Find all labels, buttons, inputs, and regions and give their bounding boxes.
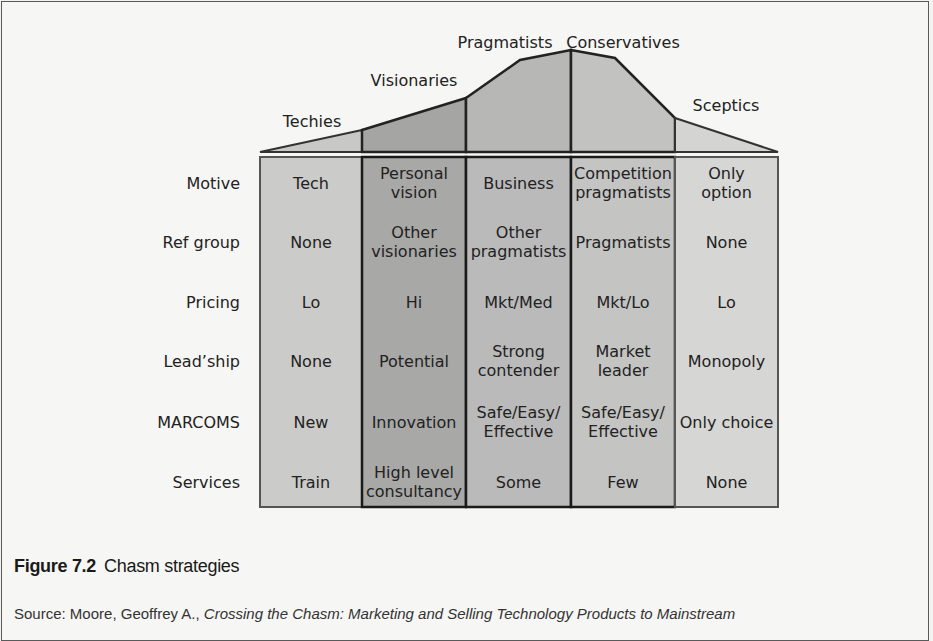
- table-cell: Safe/Easy/Effective: [571, 403, 675, 441]
- column-sceptics: [675, 157, 778, 507]
- cell-line: vision: [391, 183, 438, 202]
- source-prefix: Source: Moore, Geoffrey A.,: [14, 605, 204, 622]
- table-cell: Strongcontender: [466, 342, 571, 380]
- cell-line: contender: [478, 361, 560, 380]
- table-cell: None: [675, 473, 778, 492]
- table-cell: Hi: [362, 293, 466, 312]
- table-cell: Some: [466, 473, 571, 492]
- cell-line: Hi: [406, 293, 422, 312]
- table-cell: Monopoly: [675, 352, 778, 371]
- row-label-pricing: Pricing: [186, 293, 240, 312]
- curve-segment-sceptics: [675, 118, 778, 152]
- table-cell: None: [260, 352, 362, 371]
- figure-title: Chasm strategies: [104, 556, 239, 576]
- cell-line: New: [294, 413, 329, 432]
- curve-segment-pragmatists: [466, 50, 571, 152]
- table-cell: Otherpragmatists: [466, 223, 571, 261]
- table-cell: Competitionpragmatists: [571, 164, 675, 202]
- cell-line: Tech: [293, 174, 329, 193]
- cell-line: Safe/Easy/: [581, 403, 665, 422]
- cell-line: Few: [607, 473, 638, 492]
- table-cell: Pragmatists: [571, 233, 675, 252]
- table-cell: None: [675, 233, 778, 252]
- cell-line: Other: [496, 223, 541, 242]
- cell-line: Effective: [588, 422, 658, 441]
- cell-line: None: [290, 233, 332, 252]
- cell-line: Competition: [574, 164, 672, 183]
- row-label-marcoms: MARCOMS: [157, 413, 240, 432]
- row-label-services: Services: [173, 473, 240, 492]
- cell-line: Train: [292, 473, 330, 492]
- cell-line: None: [706, 233, 748, 252]
- row-label-leadership: Lead’ship: [163, 352, 240, 371]
- cell-line: None: [706, 473, 748, 492]
- curve-segment-visionaries: [362, 98, 466, 152]
- cell-line: Only: [708, 164, 745, 183]
- table-cell: Innovation: [362, 413, 466, 432]
- curve-segment-conservatives: [571, 50, 675, 152]
- cell-line: Safe/Easy/: [477, 403, 561, 422]
- table-cell: Few: [571, 473, 675, 492]
- cell-line: Mkt/Med: [484, 293, 553, 312]
- cell-line: Only choice: [680, 413, 774, 432]
- table-cell: Othervisionaries: [362, 223, 466, 261]
- cell-line: Monopoly: [688, 352, 765, 371]
- table-cell: Only choice: [675, 413, 778, 432]
- cell-line: visionaries: [371, 242, 457, 261]
- table-cell: Onlyoption: [675, 164, 778, 202]
- row-label-motive: Motive: [186, 174, 240, 193]
- figure-source: Source: Moore, Geoffrey A., Crossing the…: [14, 605, 735, 622]
- table-cell: Lo: [260, 293, 362, 312]
- figure-number: Figure 7.2: [14, 556, 96, 576]
- cell-line: Some: [496, 473, 541, 492]
- column-conservatives: [571, 157, 675, 507]
- cell-line: pragmatists: [575, 183, 671, 202]
- cell-line: Potential: [379, 352, 449, 371]
- cell-line: High level: [374, 463, 454, 482]
- segment-label-conservatives: Conservatives: [566, 33, 680, 52]
- cell-line: Lo: [302, 293, 320, 312]
- segment-label-sceptics: Sceptics: [693, 96, 760, 115]
- column-techies: [260, 157, 362, 507]
- table-cell: None: [260, 233, 362, 252]
- cell-line: leader: [598, 361, 649, 380]
- cell-line: Pragmatists: [576, 233, 671, 252]
- table-cell: Lo: [675, 293, 778, 312]
- cell-line: Lo: [717, 293, 735, 312]
- table-cell: Personalvision: [362, 164, 466, 202]
- curve-segment-techies: [260, 130, 362, 152]
- table-cell: New: [260, 413, 362, 432]
- table-cell: Potential: [362, 352, 466, 371]
- cell-line: Effective: [484, 422, 554, 441]
- table-cell: Tech: [260, 174, 362, 193]
- segment-label-visionaries: Visionaries: [371, 71, 458, 90]
- cell-line: consultancy: [366, 482, 462, 501]
- table-cell: Mkt/Med: [466, 293, 571, 312]
- cell-line: None: [290, 352, 332, 371]
- column-pragmatists: [466, 157, 571, 507]
- table-cell: Mkt/Lo: [571, 293, 675, 312]
- cell-line: Market: [596, 342, 651, 361]
- cell-line: option: [701, 183, 752, 202]
- cell-line: Mkt/Lo: [596, 293, 649, 312]
- table-cell: Safe/Easy/Effective: [466, 403, 571, 441]
- cell-line: Personal: [380, 164, 448, 183]
- table-cell: Marketleader: [571, 342, 675, 380]
- segment-label-techies: Techies: [283, 112, 341, 131]
- table-cell: Train: [260, 473, 362, 492]
- cell-line: Strong: [492, 342, 545, 361]
- figure-caption: Figure 7.2Chasm strategies: [14, 556, 239, 577]
- source-title: Crossing the Chasm: Marketing and Sellin…: [204, 605, 735, 622]
- cell-line: Innovation: [372, 413, 457, 432]
- cell-line: Business: [483, 174, 554, 193]
- cell-line: pragmatists: [471, 242, 567, 261]
- row-label-ref-group: Ref group: [163, 233, 240, 252]
- segment-label-pragmatists: Pragmatists: [458, 33, 553, 52]
- column-visionaries: [362, 157, 466, 507]
- cell-line: Other: [391, 223, 436, 242]
- table-cell: High levelconsultancy: [362, 463, 466, 501]
- table-cell: Business: [466, 174, 571, 193]
